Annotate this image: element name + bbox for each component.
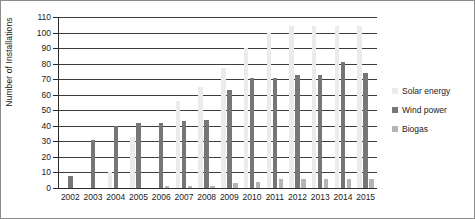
bar-solar-2009 (221, 68, 226, 188)
bar-group (82, 17, 105, 188)
bar-biogas-2015 (369, 179, 374, 188)
bar-biogas-2011 (279, 179, 284, 188)
bar-wind-2008 (204, 120, 209, 188)
bar-group (104, 17, 127, 188)
y-axis-tick-label: 70 (26, 75, 51, 84)
bar-group (218, 17, 241, 188)
x-axis-tick-label: 2006 (150, 192, 173, 202)
bar-group (241, 17, 264, 188)
gridline (59, 188, 377, 189)
y-axis-tick-label: 100 (26, 29, 51, 38)
bar-solar-2014 (335, 26, 340, 188)
x-axis-tick-label: 2008 (195, 192, 218, 202)
y-axis-tick (53, 172, 58, 173)
x-axis-labels: 2002200320042005200620072008200920102011… (59, 192, 377, 206)
y-axis-tick-label: 30 (26, 137, 51, 146)
y-axis-tick-label: 20 (26, 153, 51, 162)
bar-group (354, 17, 377, 188)
bar-wind-2012 (295, 75, 300, 188)
x-axis-tick-label: 2007 (173, 192, 196, 202)
legend-item-wind-power: Wind power (392, 103, 472, 117)
bar-chart-figure: Number of Installations 2002200320042005… (0, 0, 475, 219)
bar-group (195, 17, 218, 188)
bar-biogas-2006 (165, 186, 170, 188)
legend-label-wind-power: Wind power (402, 106, 447, 115)
y-axis-tick (53, 64, 58, 65)
y-axis-tick-label: 10 (26, 168, 51, 177)
bar-solar-2010 (244, 48, 249, 188)
y-axis-tick-label: 80 (26, 60, 51, 69)
y-axis-tick (53, 33, 58, 34)
bar-biogas-2012 (301, 179, 306, 188)
legend-swatch-icon-solar-energy (392, 88, 398, 94)
x-axis-tick-label: 2013 (309, 192, 332, 202)
legend-label-solar-energy: Solar energy (402, 87, 450, 96)
bar-solar-2011 (267, 33, 272, 188)
bar-solar-2013 (312, 26, 317, 188)
bar-biogas-2007 (188, 186, 193, 188)
x-axis-tick-label: 2012 (286, 192, 309, 202)
bar-wind-2014 (341, 62, 346, 188)
bar-wind-2005 (136, 123, 141, 188)
bar-solar-2015 (357, 26, 362, 188)
y-axis-title: Number of Installations (4, 0, 16, 152)
legend-label-biogas: Biogas (402, 125, 428, 134)
x-axis-tick-label: 2004 (104, 192, 127, 202)
y-axis-tick (53, 141, 58, 142)
legend-item-biogas: Biogas (392, 122, 472, 136)
bar-wind-2011 (273, 78, 278, 188)
y-axis-tick (53, 95, 58, 96)
y-axis-tick (53, 157, 58, 158)
bar-group (332, 17, 355, 188)
legend-swatch-icon-biogas (392, 126, 398, 132)
bar-wind-2004 (114, 126, 119, 188)
bar-group (286, 17, 309, 188)
x-axis-tick-label: 2005 (127, 192, 150, 202)
y-axis-tick-label: 50 (26, 106, 51, 115)
y-axis-tick (53, 126, 58, 127)
x-axis-tick-label: 2014 (332, 192, 355, 202)
x-axis-tick-label: 2011 (263, 192, 286, 202)
bar-biogas-2014 (347, 179, 352, 188)
bar-biogas-2008 (210, 186, 215, 188)
plot-area (59, 17, 377, 188)
bar-wind-2006 (159, 123, 164, 188)
bar-biogas-2010 (256, 182, 261, 188)
bar-wind-2007 (182, 121, 187, 188)
legend-item-solar-energy: Solar energy (392, 84, 472, 98)
y-axis-tick-label: 0 (26, 184, 51, 193)
bar-solar-2007 (176, 101, 181, 188)
bar-wind-2009 (227, 90, 232, 188)
bar-group (59, 17, 82, 188)
bar-wind-2013 (318, 75, 323, 188)
bar-solar-2012 (289, 26, 294, 188)
y-axis-tick-label: 40 (26, 122, 51, 131)
y-axis-tick (53, 48, 58, 49)
bar-solar-2004 (108, 172, 113, 188)
y-axis-tick-label: 60 (26, 91, 51, 100)
bars-layer (59, 17, 377, 188)
x-axis-tick-label: 2003 (82, 192, 105, 202)
x-axis-tick-label: 2009 (218, 192, 241, 202)
bar-wind-2015 (363, 73, 368, 188)
y-axis-tick (53, 110, 58, 111)
bar-group (263, 17, 286, 188)
bar-wind-2002 (68, 176, 73, 188)
bar-biogas-2009 (233, 183, 238, 188)
bar-wind-2003 (91, 140, 96, 188)
y-axis-tick (53, 17, 58, 18)
x-axis-tick-label: 2010 (241, 192, 264, 202)
bar-group (309, 17, 332, 188)
x-axis-tick-label: 2002 (59, 192, 82, 202)
bar-wind-2010 (250, 78, 255, 188)
bar-solar-2005 (130, 137, 135, 188)
chart-legend: Solar energy Wind power Biogas (392, 84, 472, 141)
bar-group (173, 17, 196, 188)
legend-swatch-icon-wind-power (392, 107, 398, 113)
y-axis-tick (53, 188, 58, 189)
bar-group (127, 17, 150, 188)
x-axis-tick-label: 2015 (354, 192, 377, 202)
bar-solar-2008 (198, 87, 203, 188)
y-axis-tick (53, 79, 58, 80)
y-axis-tick-label: 90 (26, 44, 51, 53)
